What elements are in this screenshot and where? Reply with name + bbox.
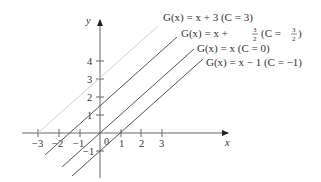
label-c-0: G(x) = x (C = 0) bbox=[197, 42, 270, 55]
x-tick-label: 1 bbox=[119, 138, 124, 149]
label-c-3: G(x) = x + 3 (C = 3) bbox=[163, 11, 253, 24]
line-c-0 bbox=[62, 49, 194, 167]
svg-text:): ) bbox=[298, 27, 302, 40]
y-axis-label: y bbox=[85, 15, 91, 26]
x-tick-label: 3 bbox=[159, 138, 164, 149]
svg-text:3: 3 bbox=[292, 26, 296, 34]
label-c-neg1: G(x) = x − 1 (C = −1) bbox=[206, 56, 302, 69]
label-c-3-2: G(x) = x + 3 2 (C = 3 2 ) bbox=[181, 26, 302, 43]
x-tick-label: 2 bbox=[139, 138, 144, 149]
y-tick-label: 2 bbox=[87, 92, 92, 103]
x-tick-label: −3 bbox=[32, 138, 43, 149]
x-axis-label: x bbox=[224, 137, 230, 148]
y-tick-label: −1 bbox=[83, 146, 94, 157]
svg-text:G(x) = x +: G(x) = x + bbox=[181, 27, 228, 40]
line-c-3-2 bbox=[45, 37, 177, 155]
svg-text:(C =: (C = bbox=[261, 27, 281, 40]
y-tick-label: 4 bbox=[87, 56, 93, 67]
svg-text:3: 3 bbox=[253, 26, 257, 34]
y-tick-label: 3 bbox=[87, 74, 92, 85]
function-family-plot: −3 −2 −1 1 2 3 0 4 3 2 1 −1 x y G(x) = x… bbox=[0, 0, 321, 182]
svg-text:2: 2 bbox=[292, 35, 296, 43]
line-c-3 bbox=[38, 26, 158, 133]
